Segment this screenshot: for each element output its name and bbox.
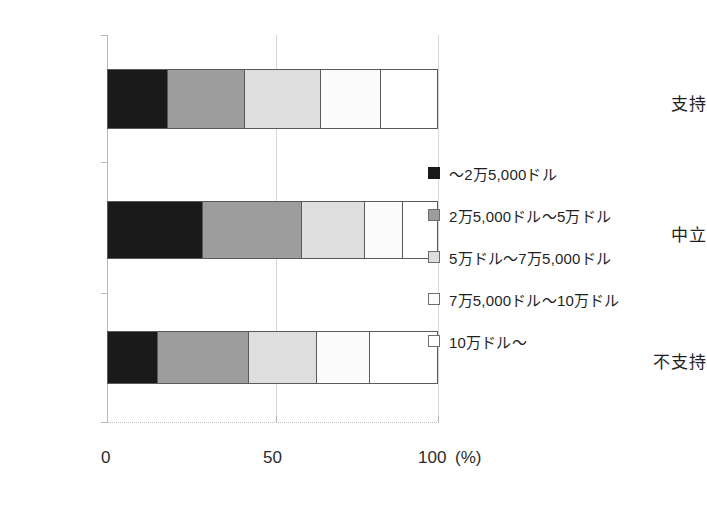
bar-segment	[249, 332, 316, 383]
legend-item: 10万ドル～	[428, 320, 700, 362]
x-tick-label-50: 50	[263, 448, 282, 468]
bar-segment	[365, 202, 403, 258]
bar-series-shiji	[107, 69, 438, 129]
bar-segment	[245, 70, 320, 128]
bar-series-churitsu	[107, 201, 438, 259]
x-axis-tick	[276, 416, 277, 423]
bar-segment	[381, 70, 437, 128]
legend-item: 5万ドル～7万5,000ドル	[428, 236, 700, 278]
legend-label: 10万ドル～	[449, 331, 527, 352]
bar-segment	[203, 202, 302, 258]
y-axis-tick	[101, 293, 108, 294]
bar-segment	[370, 332, 437, 383]
y-axis-tick	[101, 35, 108, 36]
legend-label: 2万5,000ドル～5万ドル	[449, 205, 611, 226]
legend-swatch-icon	[428, 251, 440, 263]
bar-segment	[158, 332, 249, 383]
x-tick-label-100: 100	[418, 448, 446, 468]
bar-segment	[302, 202, 366, 258]
bar-segment	[317, 332, 371, 383]
legend-item: ～2万5,000ドル	[428, 152, 700, 194]
bar-segment	[108, 332, 158, 383]
legend-swatch-icon	[428, 167, 440, 179]
y-axis-tick	[101, 162, 108, 163]
legend-item: 7万5,000ドル～10万ドル	[428, 278, 700, 320]
bar-series-fushiji	[107, 331, 438, 384]
x-axis-unit-label: (%)	[455, 448, 481, 468]
legend-swatch-icon	[428, 335, 440, 347]
category-label-shiji: 支持	[615, 90, 707, 115]
x-axis-tick	[438, 416, 439, 423]
x-tick-label-0: 0	[101, 448, 110, 468]
legend-label: 7万5,000ドル～10万ドル	[449, 289, 620, 310]
legend: ～2万5,000ドル 2万5,000ドル～5万ドル 5万ドル～7万5,000ドル…	[428, 152, 700, 362]
bar-segment	[108, 202, 203, 258]
x-axis-tick	[107, 416, 108, 423]
legend-swatch-icon	[428, 209, 440, 221]
legend-item: 2万5,000ドル～5万ドル	[428, 194, 700, 236]
legend-swatch-icon	[428, 293, 440, 305]
bar-segment	[168, 70, 245, 128]
bar-segment	[108, 70, 168, 128]
legend-label: ～2万5,000ドル	[449, 163, 557, 184]
stacked-bar-chart: 支持 中立 不支持 0 50 100 (%) ～2万5,000ドル 2万5,00…	[0, 0, 707, 505]
legend-label: 5万ドル～7万5,000ドル	[449, 247, 611, 268]
bar-segment	[321, 70, 382, 128]
x-axis-line	[107, 422, 439, 424]
